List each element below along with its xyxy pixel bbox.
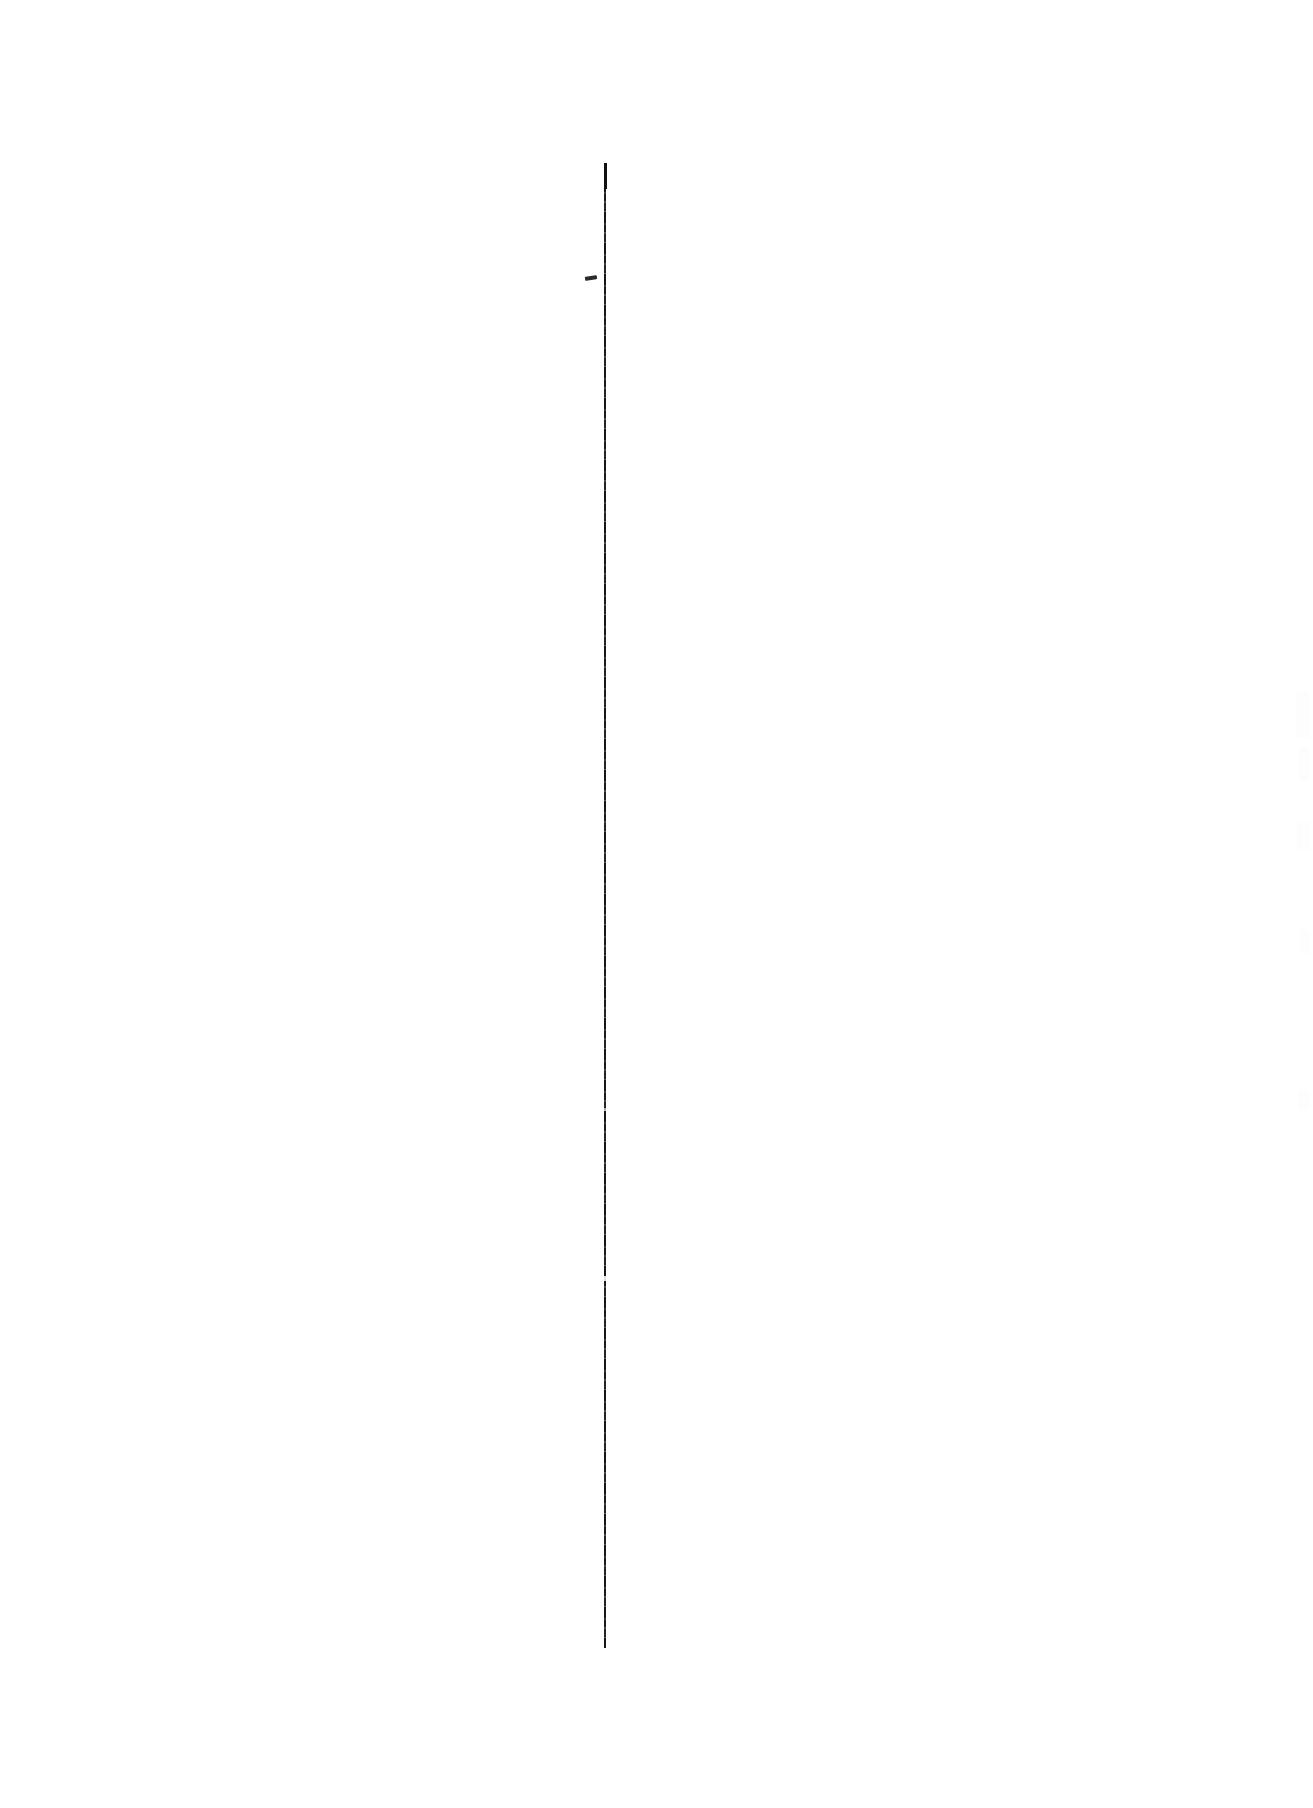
gutter-line-break — [603, 1276, 607, 1281]
gutter-line-break-secondary — [603, 1108, 607, 1111]
edge-smudge — [1300, 930, 1309, 954]
edge-smudge — [1297, 822, 1309, 850]
edge-smudge — [1296, 692, 1309, 738]
edge-smudge — [1298, 1090, 1309, 1110]
vertical-gutter-line — [604, 163, 606, 1648]
gutter-line-top-cap — [604, 163, 607, 189]
edge-smudge — [1299, 748, 1309, 780]
scanned-page — [0, 0, 1313, 1808]
small-dash-mark — [585, 275, 597, 281]
